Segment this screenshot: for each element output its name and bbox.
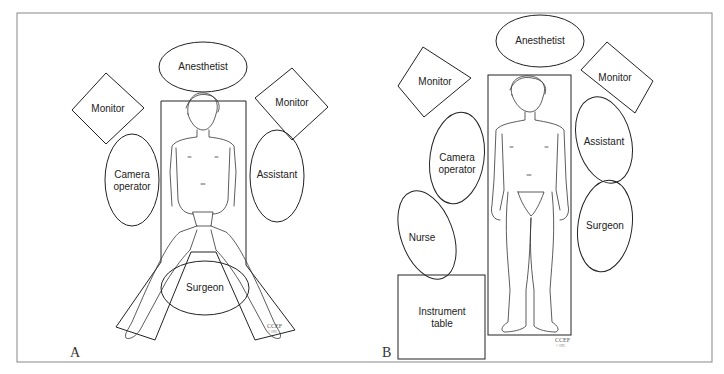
anesthetist-label: Anesthetist bbox=[515, 35, 565, 46]
operating-table-a bbox=[116, 101, 295, 340]
panel-a: Anesthetist Monitor Monitor Camera opera… bbox=[70, 42, 328, 360]
instrument-table-label-line2: table bbox=[431, 318, 453, 329]
artist-signature: CCEF bbox=[267, 323, 283, 329]
surgeon-station-b: Surgeon bbox=[572, 177, 638, 276]
operating-table-b bbox=[488, 75, 571, 335]
monitor-right-a: Monitor bbox=[255, 68, 328, 140]
surgeon-label: Surgeon bbox=[586, 220, 624, 231]
assistant-label: Assistant bbox=[584, 136, 625, 147]
instrument-table-label-line1: Instrument bbox=[418, 306, 465, 317]
assistant-station-a: Assistant bbox=[250, 130, 304, 222]
assistant-station-b: Assistant bbox=[567, 91, 642, 190]
panel-label-a: A bbox=[70, 345, 81, 360]
monitor-left-b: Monitor bbox=[398, 47, 471, 117]
nurse-station-b: Nurse bbox=[387, 183, 467, 287]
surgeon-label: Surgeon bbox=[186, 282, 224, 293]
anesthetist-station-a: Anesthetist bbox=[159, 42, 247, 92]
camera-operator-station-a: Camera operator bbox=[105, 134, 159, 226]
instrument-table-b: Instrument table bbox=[398, 275, 485, 359]
surgeon-station-a: Surgeon bbox=[161, 261, 249, 315]
anesthetist-station-b: Anesthetist bbox=[496, 15, 584, 67]
camera-operator-label-line2: operator bbox=[438, 164, 476, 175]
monitor-label: Monitor bbox=[598, 72, 632, 83]
artist-signature-year: © 1995 bbox=[268, 329, 278, 334]
panel-b: Anesthetist Monitor Monitor Camera opera… bbox=[382, 15, 653, 360]
camera-operator-label-line1: Camera bbox=[439, 152, 475, 163]
nurse-label: Nurse bbox=[409, 232, 436, 243]
monitor-label: Monitor bbox=[275, 97, 309, 108]
monitor-right-b: Monitor bbox=[581, 42, 653, 113]
artist-signature: CCEF bbox=[555, 337, 571, 343]
camera-operator-label-line2: operator bbox=[113, 181, 151, 192]
monitor-left-a: Monitor bbox=[72, 73, 144, 144]
monitor-label: Monitor bbox=[91, 103, 125, 114]
anesthetist-label: Anesthetist bbox=[178, 61, 228, 72]
assistant-label: Assistant bbox=[257, 169, 298, 180]
camera-operator-station-b: Camera operator bbox=[424, 109, 490, 208]
or-setup-figure: Anesthetist Monitor Monitor Camera opera… bbox=[0, 0, 724, 374]
artist-signature-year: © 1995 bbox=[556, 343, 566, 348]
monitor-label: Monitor bbox=[418, 76, 452, 87]
camera-operator-label-line1: Camera bbox=[114, 169, 150, 180]
panel-label-b: B bbox=[382, 345, 391, 360]
patient-figure-b bbox=[491, 76, 568, 332]
